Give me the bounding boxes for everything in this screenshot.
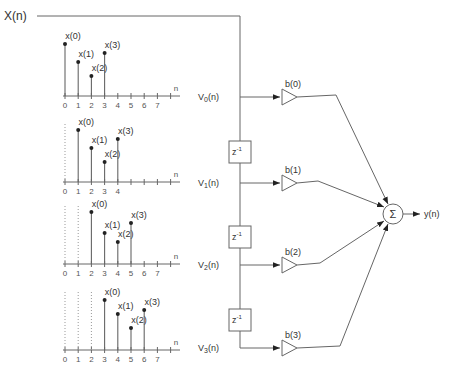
sample-label: x(0): [92, 199, 108, 209]
delay-box: z-1: [229, 309, 251, 331]
stem-plot: 01234567nx(0)x(1)x(2)x(3): [63, 199, 180, 278]
tick-label: 6: [142, 101, 147, 110]
gain-triangle-icon: [282, 175, 297, 191]
sample-dot: [116, 312, 120, 316]
tick-label: 1: [76, 187, 81, 196]
tick-label: 0: [63, 355, 68, 364]
n-axis-label: n: [174, 170, 178, 179]
tick-label: 2: [89, 101, 94, 110]
sample-label: x(1): [78, 49, 94, 59]
output-label: y(n): [424, 209, 440, 219]
sample-label: x(1): [118, 301, 134, 311]
sample-dot: [116, 240, 120, 244]
sum-input-arrow: [297, 95, 388, 204]
tick-label: 4: [116, 101, 121, 110]
sample-label: x(0): [78, 117, 94, 127]
tick-label: 0: [63, 101, 68, 110]
sample-dot: [89, 74, 93, 78]
tick-label: 1: [76, 101, 81, 110]
sigma-icon: Σ: [390, 208, 397, 220]
sample-label: x(1): [92, 135, 108, 145]
tap-signal-label: V2(n): [198, 260, 219, 271]
tick-label: 0: [63, 187, 68, 196]
tick-label: 2: [89, 187, 94, 196]
sample-label: x(3): [105, 40, 121, 50]
tap-1: V1(n)b(1): [198, 165, 384, 207]
tap-signal-label: V1(n): [198, 178, 219, 189]
tap-2: V2(n)b(2): [198, 221, 384, 273]
sample-dot: [103, 160, 107, 164]
tick-label: 6: [142, 355, 147, 364]
gain-triangle-icon: [282, 340, 297, 356]
tick-label: 4: [116, 187, 121, 196]
sample-dot: [129, 221, 133, 225]
tap-3: V3(n)b(3): [198, 224, 388, 356]
tick-label: 5: [129, 355, 134, 364]
tick-label: 7: [155, 269, 160, 278]
stem-plot: 01234567nx(0)x(1)x(2)x(3): [63, 287, 180, 364]
sum-input-arrow: [297, 224, 388, 348]
tick-label: 2: [89, 355, 94, 364]
tick-label: 7: [155, 101, 160, 110]
sample-dot: [76, 128, 80, 132]
tick-label: 3: [102, 187, 107, 196]
tap-signal-label: V0(n): [198, 92, 219, 103]
sample-dot: [129, 326, 133, 330]
tick-label: 3: [102, 269, 107, 278]
sample-dot: [142, 308, 146, 312]
stem-plot: 01234nx(0)x(1)x(2)x(3): [63, 117, 180, 196]
n-axis-label: n: [174, 338, 178, 347]
delay-line-taps: V0(n)b(0)V1(n)b(1)V2(n)b(2)V3(n)b(3)z-1z…: [198, 79, 388, 356]
sample-dot: [89, 210, 93, 214]
stem-plot: 01234567nx(0)x(1)x(2)x(3): [63, 31, 180, 110]
sample-dot: [89, 146, 93, 150]
sample-dot: [63, 42, 67, 46]
gain-triangle-icon: [282, 89, 297, 105]
sample-label: x(0): [65, 31, 81, 41]
tick-label: 4: [116, 269, 121, 278]
sample-label: x(0): [105, 287, 121, 297]
sample-label: x(3): [118, 126, 134, 136]
tap-signal-label: V3(n): [198, 343, 219, 354]
tick-label: 5: [129, 269, 134, 278]
sample-dot: [103, 51, 107, 55]
tick-label: 5: [129, 101, 134, 110]
sample-dot: [116, 137, 120, 141]
tick-label: 3: [102, 101, 107, 110]
summer-node: Σ: [383, 204, 403, 224]
tick-label: 1: [76, 355, 81, 364]
sample-dot: [103, 231, 107, 235]
sample-dot: [76, 60, 80, 64]
gain-label: b(2): [285, 247, 301, 257]
stem-plots: 01234567nx(0)x(1)x(2)x(3)01234nx(0)x(1)x…: [63, 31, 180, 364]
tick-label: 1: [76, 269, 81, 278]
gain-triangle-icon: [282, 257, 297, 273]
sum-input-arrow: [297, 181, 384, 207]
tick-label: 7: [155, 355, 160, 364]
sample-label: x(3): [131, 210, 147, 220]
tick-label: 2: [89, 269, 94, 278]
gain-label: b(3): [285, 330, 301, 340]
tick-label: 6: [142, 269, 147, 278]
gain-label: b(0): [285, 79, 301, 89]
n-axis-label: n: [174, 84, 178, 93]
sample-dot: [103, 298, 107, 302]
sum-input-arrow: [297, 221, 384, 265]
input-label: X(n): [4, 9, 27, 23]
sample-label: x(3): [144, 297, 160, 307]
delay-box: z-1: [229, 226, 251, 248]
fir-filter-diagram: X(n) 01234567nx(0)x(1)x(2)x(3)01234nx(0)…: [0, 0, 460, 372]
tick-label: 4: [116, 355, 121, 364]
n-axis-label: n: [174, 252, 178, 261]
gain-label: b(1): [285, 165, 301, 175]
tick-label: 0: [63, 269, 68, 278]
tick-label: 3: [102, 355, 107, 364]
delay-box: z-1: [229, 141, 251, 163]
